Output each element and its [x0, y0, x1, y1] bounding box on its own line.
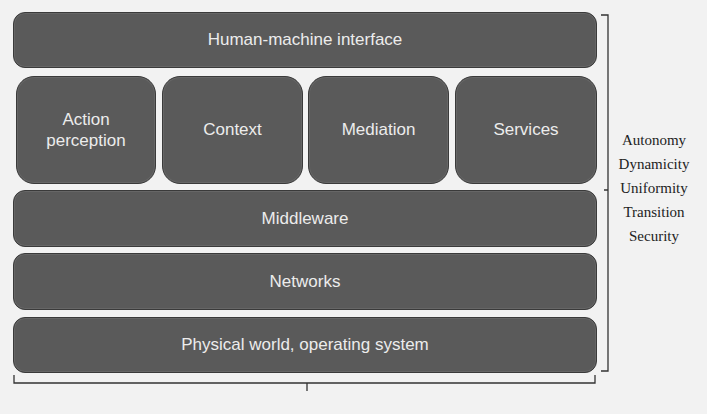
- property-dynamicity: Dynamicity: [612, 152, 696, 176]
- property-transition: Transition: [612, 200, 696, 224]
- property-autonomy: Autonomy: [612, 128, 696, 152]
- right-brace: [601, 15, 608, 371]
- property-security: Security: [612, 224, 696, 248]
- side-properties-list: Autonomy Dynamicity Uniformity Transitio…: [612, 128, 696, 248]
- braces: [0, 0, 707, 414]
- bottom-brace: [14, 375, 595, 391]
- property-uniformity: Uniformity: [612, 176, 696, 200]
